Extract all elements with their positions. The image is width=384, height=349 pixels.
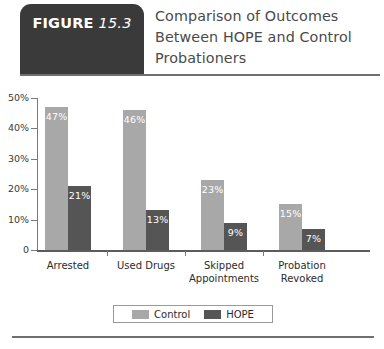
legend-item-control: Control <box>132 309 190 320</box>
figure-header: FIGURE 15.3 Comparison of Outcomes Betwe… <box>0 0 384 78</box>
figure-title-line-2: Between HOPE and Control <box>155 27 383 48</box>
bar-value-label: 23% <box>201 184 224 195</box>
y-axis-tick <box>31 189 37 190</box>
bar-hope-3: 7% <box>302 229 325 250</box>
x-axis-category-label: SkippedAppointments <box>181 260 267 285</box>
x-axis-tick <box>263 251 264 256</box>
y-axis-tick-label: 0 <box>0 245 29 255</box>
bottom-divider <box>12 336 374 338</box>
y-axis-tick-label: 20% <box>0 184 29 194</box>
y-axis-tick <box>31 98 37 99</box>
legend-item-hope: HOPE <box>204 309 254 320</box>
x-axis-category-line: Used Drugs <box>103 260 189 273</box>
legend-swatch-icon <box>204 310 221 319</box>
bar-chart: 010%20%30%40%50% 47%21%Arrested46%13%Use… <box>0 84 384 294</box>
x-axis-category-label: ProbationRevoked <box>259 260 345 285</box>
y-axis-tick <box>31 128 37 129</box>
legend-label: HOPE <box>226 309 254 320</box>
chart-legend: ControlHOPE <box>113 305 273 323</box>
figure-title-line-1: Comparison of Outcomes <box>155 6 383 27</box>
x-axis-tick <box>107 251 108 256</box>
bar-control-1: 46% <box>123 110 146 250</box>
figure-label: FIGURE <box>32 15 93 31</box>
bar-hope-0: 21% <box>68 186 91 250</box>
figure-badge-text: FIGURE 15.3 <box>20 15 144 31</box>
bar-hope-2: 9% <box>224 223 247 250</box>
figure-number-badge: FIGURE 15.3 <box>20 4 144 76</box>
bar-value-label: 47% <box>45 111 68 122</box>
figure-number: 15.3 <box>98 15 131 31</box>
bar-value-label: 9% <box>224 227 247 238</box>
bar-value-label: 13% <box>146 214 169 225</box>
x-axis-category-label: Used Drugs <box>103 260 189 273</box>
x-axis-category-line: Appointments <box>181 273 267 286</box>
y-axis-tick-label: 10% <box>0 215 29 225</box>
y-axis-tick-label: 40% <box>0 123 29 133</box>
x-axis-tick <box>185 251 186 256</box>
x-axis-category-line: Revoked <box>259 273 345 286</box>
bar-value-label: 21% <box>68 190 91 201</box>
x-axis-category-line: Skipped <box>181 260 267 273</box>
bar-hope-1: 13% <box>146 210 169 250</box>
header-divider <box>20 74 380 76</box>
x-axis-category-label: Arrested <box>25 260 111 273</box>
bar-control-3: 15% <box>279 204 302 250</box>
bar-value-label: 15% <box>279 208 302 219</box>
bar-control-2: 23% <box>201 180 224 250</box>
bar-value-label: 7% <box>302 233 325 244</box>
bar-control-0: 47% <box>45 107 68 250</box>
legend-swatch-icon <box>132 310 149 319</box>
y-axis-tick <box>31 220 37 221</box>
y-axis-tick <box>31 159 37 160</box>
y-axis-tick-label: 30% <box>0 154 29 164</box>
figure-title-line-3: Probationers <box>155 48 383 69</box>
legend-label: Control <box>154 309 190 320</box>
x-axis-category-line: Probation <box>259 260 345 273</box>
figure-title: Comparison of Outcomes Between HOPE and … <box>155 6 383 69</box>
x-axis-line <box>37 250 370 252</box>
bar-value-label: 46% <box>123 114 146 125</box>
y-axis-tick-label: 50% <box>0 93 29 103</box>
x-axis-category-line: Arrested <box>25 260 111 273</box>
y-axis-tick <box>31 250 37 251</box>
